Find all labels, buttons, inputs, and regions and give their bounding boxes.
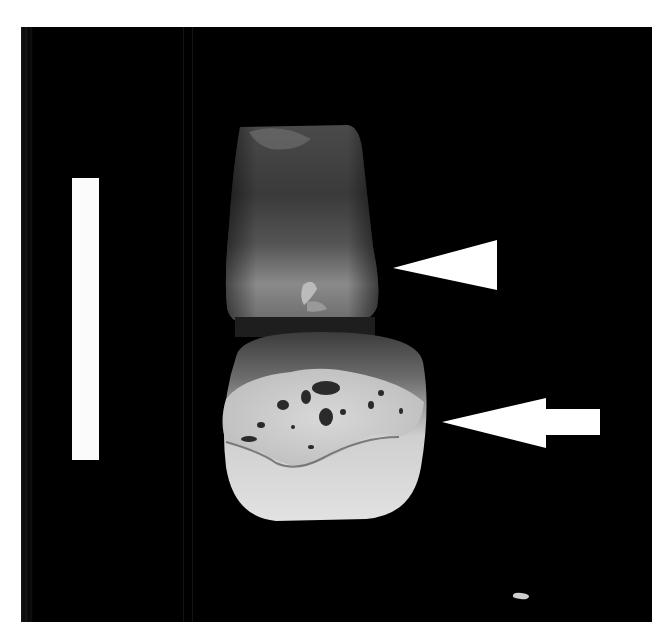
arrowhead-marker xyxy=(393,240,497,290)
tooth-specimen xyxy=(21,27,652,622)
specimen-photo xyxy=(21,27,652,622)
arrow-marker xyxy=(442,398,600,448)
